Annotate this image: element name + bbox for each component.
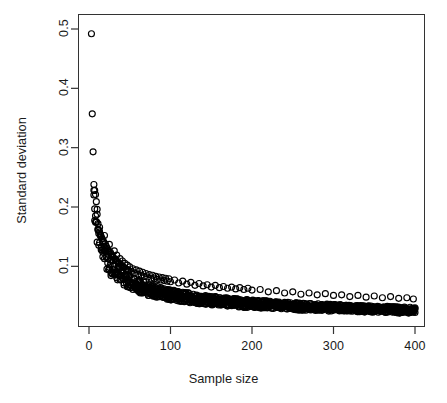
y-tick-label: 0.5	[57, 0, 71, 58]
data-point	[347, 294, 353, 300]
data-point	[90, 149, 96, 155]
x-axis-ticks	[89, 327, 415, 334]
x-tick-label: 0	[59, 339, 119, 353]
data-point	[273, 288, 279, 294]
y-tick-label: 0.4	[57, 57, 71, 117]
data-point	[410, 296, 416, 302]
data-point	[355, 292, 361, 298]
y-axis-ticks	[71, 29, 78, 266]
x-tick-label: 100	[141, 339, 201, 353]
x-axis-title: Sample size	[0, 371, 447, 386]
y-tick-label: 0.1	[57, 235, 71, 295]
data-point	[396, 295, 402, 301]
data-point	[363, 294, 369, 300]
data-point	[298, 291, 304, 297]
data-point	[88, 31, 94, 37]
data-point	[93, 199, 99, 205]
data-point	[314, 292, 320, 298]
y-tick-label: 0.3	[57, 117, 71, 177]
data-point	[404, 295, 410, 301]
data-point	[265, 289, 271, 295]
x-tick-label: 400	[385, 339, 445, 353]
data-point	[371, 293, 377, 299]
data-point	[89, 111, 95, 117]
data-point	[339, 292, 345, 298]
data-point	[282, 290, 288, 296]
x-tick-label: 200	[222, 339, 282, 353]
y-tick-label: 0.2	[57, 176, 71, 236]
data-point	[290, 289, 296, 295]
y-axis-title: Standard deviation	[14, 106, 29, 236]
plot-figure: 01002003004000.10.20.30.40.5 Standard de…	[0, 0, 447, 403]
data-point	[331, 292, 337, 298]
data-point	[379, 295, 385, 301]
data-point-group	[88, 31, 418, 316]
data-point	[322, 291, 328, 297]
x-tick-label: 300	[304, 339, 364, 353]
data-point	[91, 181, 97, 187]
data-point	[388, 294, 394, 300]
data-point	[306, 290, 312, 296]
data-point	[257, 286, 263, 292]
